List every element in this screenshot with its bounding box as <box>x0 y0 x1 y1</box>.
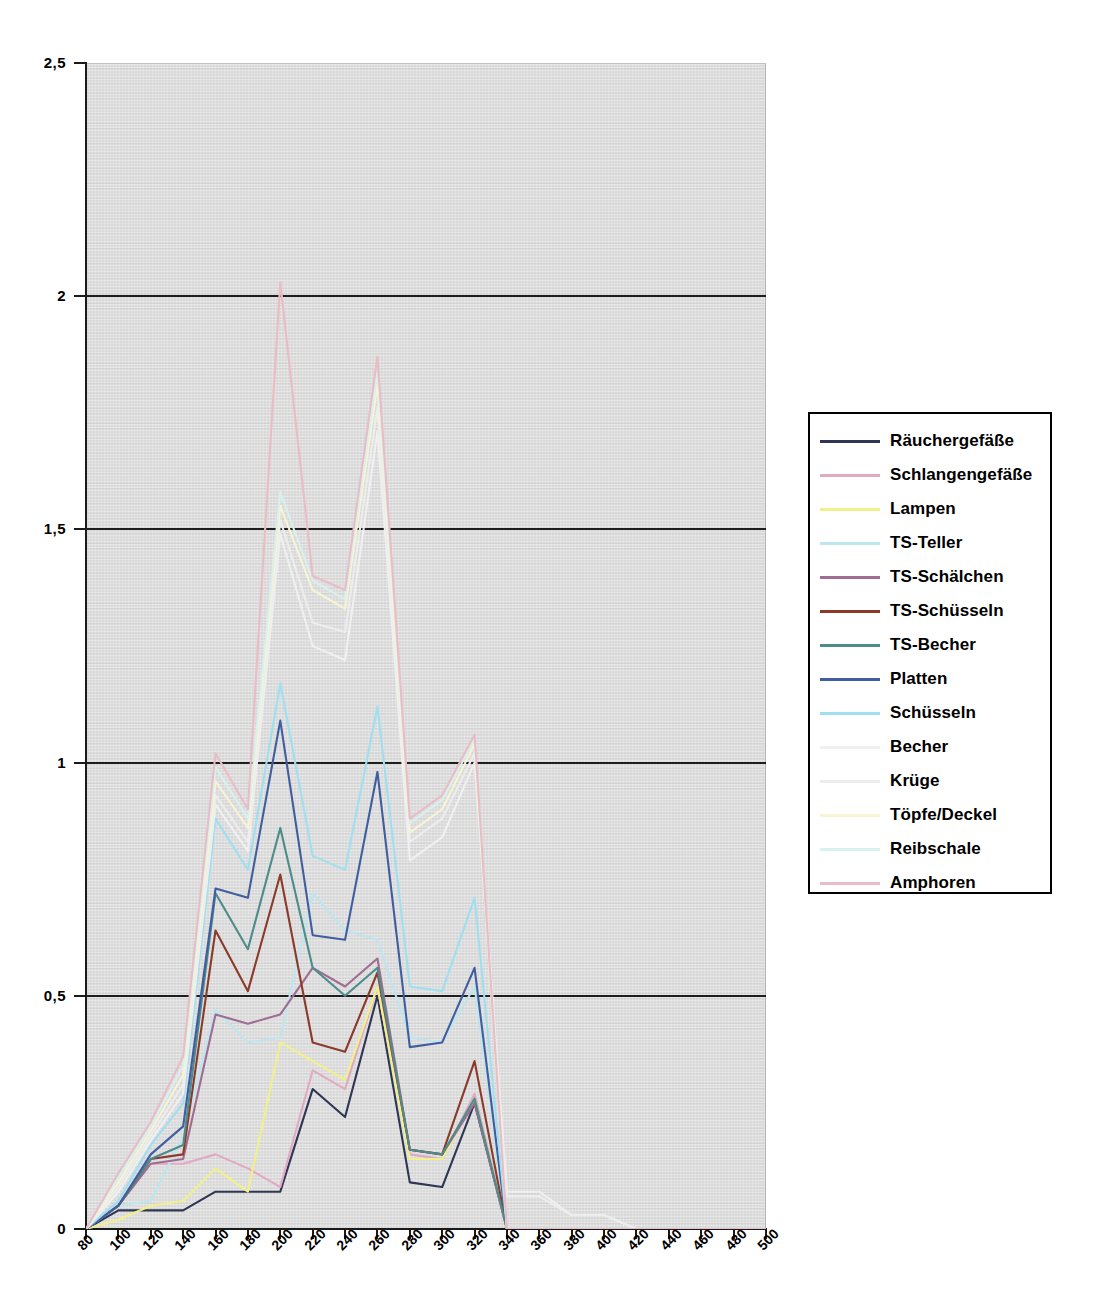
y-tick-label: 2 <box>6 288 66 303</box>
legend-item-label: TS-Schüsseln <box>890 601 1004 621</box>
legend-item-label: TS-Teller <box>890 533 962 553</box>
legend-item-label: TS-Becher <box>890 635 976 655</box>
legend-item-label: TS-Schälchen <box>890 567 1004 587</box>
series-line <box>86 683 766 1229</box>
legend-swatch-icon <box>820 610 880 613</box>
legend-item[interactable]: Lampen <box>820 492 1042 526</box>
legend-item-label: Reibschale <box>890 839 981 859</box>
y-tick-label: 0 <box>6 1221 66 1236</box>
legend-swatch-icon <box>820 746 880 749</box>
legend-item-label: Krüge <box>890 771 940 791</box>
legend-swatch-icon <box>820 474 880 477</box>
legend-swatch-icon <box>820 712 880 715</box>
legend-swatch-icon <box>820 882 880 885</box>
legend-item-label: Schlangengefäße <box>890 465 1032 485</box>
legend-swatch-icon <box>820 644 880 647</box>
legend-item-label: Lampen <box>890 499 956 519</box>
legend-item[interactable]: Räuchergefäße <box>820 424 1042 458</box>
legend-item[interactable]: TS-Teller <box>820 526 1042 560</box>
legend-swatch-icon <box>820 576 880 579</box>
y-tick-label: 1,5 <box>6 521 66 536</box>
legend-item[interactable]: Töpfe/Deckel <box>820 798 1042 832</box>
legend-item-label: Schüsseln <box>890 703 976 723</box>
y-tick-label: 1 <box>6 755 66 770</box>
legend-item[interactable]: TS-Schüsseln <box>820 594 1042 628</box>
legend-swatch-icon <box>820 678 880 681</box>
legend-item[interactable]: Amphoren <box>820 866 1042 900</box>
legend-item[interactable]: Schlangengefäße <box>820 458 1042 492</box>
legend-item[interactable]: Becher <box>820 730 1042 764</box>
legend-item[interactable]: TS-Becher <box>820 628 1042 662</box>
series-lines <box>86 63 766 1229</box>
legend-item-label: Amphoren <box>890 873 976 893</box>
y-tick-label: 0,5 <box>6 988 66 1003</box>
legend-swatch-icon <box>820 440 880 443</box>
legend-item[interactable]: Krüge <box>820 764 1042 798</box>
chart-figure: 00,511,522,5 801001201401601802002202402… <box>0 0 1104 1307</box>
legend-item[interactable]: Platten <box>820 662 1042 696</box>
legend-swatch-icon <box>820 814 880 817</box>
y-tick-label: 2,5 <box>6 55 66 70</box>
legend-swatch-icon <box>820 542 880 545</box>
legend-swatch-icon <box>820 780 880 783</box>
legend-item[interactable]: TS-Schälchen <box>820 560 1042 594</box>
legend-item-label: Räuchergefäße <box>890 431 1014 451</box>
legend-item-label: Platten <box>890 669 947 689</box>
legend-swatch-icon <box>820 508 880 511</box>
legend-swatch-icon <box>820 848 880 851</box>
legend: RäuchergefäßeSchlangengefäßeLampenTS-Tel… <box>808 412 1052 894</box>
legend-item[interactable]: Reibschale <box>820 832 1042 866</box>
legend-item[interactable]: Schüsseln <box>820 696 1042 730</box>
legend-item-label: Töpfe/Deckel <box>890 805 997 825</box>
legend-item-label: Becher <box>890 737 948 757</box>
x-tick-label: 80 <box>74 1231 96 1253</box>
